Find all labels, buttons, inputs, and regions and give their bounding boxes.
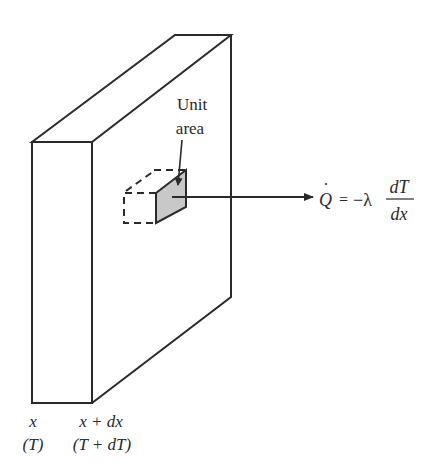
dashed-cube-outline (124, 193, 156, 223)
equation-equals: = (339, 191, 348, 208)
equation-coefficient: −λ (353, 190, 372, 210)
fourier-law-equation: · Q = −λ dT dx (319, 176, 414, 224)
position-label-x-plus-dx: x + dx (78, 412, 123, 431)
equation-denominator: dx (391, 204, 408, 224)
temperature-label-t-plus-dt: (T + dT) (73, 435, 132, 454)
unit-area-label-line1: Unit (177, 95, 208, 114)
slab (32, 35, 231, 403)
slab-front-face (32, 142, 92, 403)
unit-area-label-line2: area (176, 119, 205, 138)
temperature-label-t: (T) (23, 435, 44, 454)
position-label-x: x (28, 412, 37, 431)
equation-lhs: Q (319, 190, 332, 210)
equation-numerator: dT (389, 177, 410, 197)
heat-conduction-diagram: Unit area · Q = −λ dT dx x (T) x + dx (T… (0, 0, 431, 472)
dashed-cube-top-diagonal (126, 171, 154, 191)
